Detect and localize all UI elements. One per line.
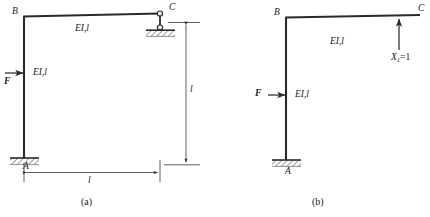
node-label-c-a: C xyxy=(169,3,175,13)
link-support-c-diagram-a xyxy=(146,11,175,36)
force-label-f-a: F xyxy=(4,77,10,87)
dimension-label-horizontal-a: l xyxy=(88,176,91,186)
unit-force-symbol: X xyxy=(391,52,397,62)
vertical-dimension-a xyxy=(164,23,200,165)
node-label-c-b: C xyxy=(418,4,424,14)
figure-vector-canvas xyxy=(0,0,430,217)
member-label-column-b: EI,l xyxy=(295,90,309,100)
node-label-b-a: B xyxy=(12,7,18,17)
diagram-b-group xyxy=(268,15,420,166)
caption-b: (b) xyxy=(312,196,324,207)
dimension-label-vertical-a: l xyxy=(190,85,193,95)
member-label-column-a: EI,l xyxy=(33,68,47,78)
force-label-f-b: F xyxy=(255,89,261,99)
horizontal-dimension-a xyxy=(24,160,160,182)
caption-a: (a) xyxy=(81,196,92,207)
node-label-b-b: B xyxy=(274,8,280,18)
unit-force-value: =1 xyxy=(400,52,410,62)
beam-bc-a xyxy=(23,14,160,17)
structural-frame-figure: B C A EI,l EI,l F l l (a) B C A EI,l EI,… xyxy=(0,0,430,217)
diagram-a-group xyxy=(5,11,200,182)
beam-bc-b xyxy=(285,15,420,18)
unit-force-label-x1: X1=1 xyxy=(391,53,410,63)
node-label-a-a: A xyxy=(23,162,29,172)
member-label-beam-a: EI,l xyxy=(75,24,89,34)
unit-force-subscript: 1 xyxy=(397,56,400,63)
pin-circle-upper-c xyxy=(157,11,162,16)
frame-b-members xyxy=(285,15,420,160)
frame-a-members xyxy=(23,14,160,159)
node-label-a-b: A xyxy=(285,167,291,177)
member-label-beam-b: EI,l xyxy=(330,37,344,47)
